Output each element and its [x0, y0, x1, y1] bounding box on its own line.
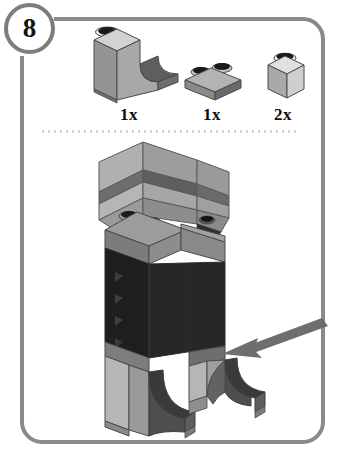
- plate-1x2-icon: [172, 60, 252, 104]
- part-brick-1x1: 2x: [250, 48, 316, 123]
- part-quantity-label: 1x: [70, 106, 188, 123]
- parts-bin-divider: [40, 130, 298, 133]
- brick-1x1-icon: [250, 48, 316, 104]
- part-quantity-label: 1x: [172, 106, 252, 123]
- placement-arrow: [218, 312, 330, 364]
- part-curved-bow-brick: 1x: [70, 24, 188, 123]
- instruction-page: 8: [0, 0, 338, 461]
- part-plate-1x2: 1x: [172, 60, 252, 123]
- parts-bin: 1x 1x: [26, 22, 318, 122]
- assembly-illustration: [85, 140, 275, 440]
- part-quantity-label: 2x: [250, 106, 316, 123]
- curved-bow-brick-icon: [70, 24, 188, 104]
